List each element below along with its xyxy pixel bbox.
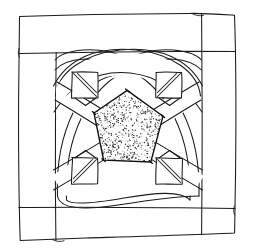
frame-right-vertical-rule — [202, 14, 203, 234]
figure-canvas: Hand-drawn interlaced knot panel Pen and… — [0, 0, 254, 250]
interlace-drawing — [0, 0, 254, 250]
